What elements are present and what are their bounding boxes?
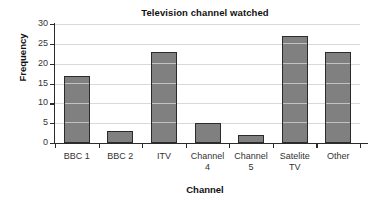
x-axis-tick-label: Channel 5 xyxy=(229,151,273,173)
bar xyxy=(151,52,177,143)
bar-gridline xyxy=(65,83,89,84)
x-axis-tick-label: ITV xyxy=(142,151,186,173)
bar xyxy=(64,76,90,143)
bar-gridline xyxy=(152,83,176,84)
y-axis-tick-label: 0 xyxy=(18,138,48,147)
y-axis-tick-label: 25 xyxy=(18,39,48,48)
bar-gridline xyxy=(326,63,350,64)
bar xyxy=(195,123,221,143)
x-axis-tick-label: Channel 4 xyxy=(186,151,230,173)
bar-gridline xyxy=(283,103,307,104)
x-axis-tick-label: BBC 1 xyxy=(55,151,99,173)
bar-slot xyxy=(316,24,360,143)
bar xyxy=(107,131,133,143)
bar-gridline xyxy=(152,63,176,64)
x-axis-tick xyxy=(142,144,143,148)
bar-gridline xyxy=(65,122,89,123)
x-axis-tick-label: BBC 2 xyxy=(99,151,143,173)
bar-gridline xyxy=(283,63,307,64)
bar-slot xyxy=(273,24,317,143)
bar-slot xyxy=(186,24,230,143)
plot-area xyxy=(55,24,360,143)
y-axis-tick-label: 5 xyxy=(18,118,48,127)
bar xyxy=(238,135,264,143)
bar xyxy=(325,52,351,143)
bar-gridline xyxy=(326,83,350,84)
bar-gridline xyxy=(283,43,307,44)
y-axis-line xyxy=(54,23,55,144)
y-axis-tick xyxy=(50,64,54,65)
bar-gridline xyxy=(326,103,350,104)
y-axis-tick-label: 15 xyxy=(18,79,48,88)
y-axis-tick-label: 30 xyxy=(18,19,48,28)
x-axis-tick xyxy=(55,144,56,148)
x-axis-tick xyxy=(360,144,361,148)
bar-slot xyxy=(142,24,186,143)
x-axis-tick-label: Other xyxy=(316,151,360,173)
x-axis-tick-label: Satelite TV xyxy=(273,151,317,173)
bar-series xyxy=(55,24,360,143)
x-axis-tick xyxy=(229,144,230,148)
bar-slot xyxy=(229,24,273,143)
y-axis-tick xyxy=(50,143,54,144)
y-axis-tick-label: 20 xyxy=(18,59,48,68)
bar-gridline xyxy=(283,83,307,84)
x-axis-tick xyxy=(99,144,100,148)
x-axis-tick xyxy=(316,144,317,148)
bar xyxy=(282,36,308,143)
chart-title: Television channel watched xyxy=(45,7,365,18)
bar-chart: Television channel watched Frequency Cha… xyxy=(0,0,382,208)
bar-gridline xyxy=(152,122,176,123)
bar-slot xyxy=(99,24,143,143)
x-axis-tick xyxy=(186,144,187,148)
y-axis-tick-label: 10 xyxy=(18,98,48,107)
bar-gridline xyxy=(65,103,89,104)
y-axis-tick xyxy=(50,103,54,104)
bar-gridline xyxy=(152,103,176,104)
bar-slot xyxy=(55,24,99,143)
x-axis-title: Channel xyxy=(45,184,365,195)
y-axis-tick xyxy=(50,24,54,25)
bar-gridline xyxy=(283,122,307,123)
bar-gridline xyxy=(326,122,350,123)
x-axis-tick xyxy=(273,144,274,148)
y-axis-tick xyxy=(50,123,54,124)
x-axis-line xyxy=(54,143,368,144)
x-axis-tick-labels: BBC 1BBC 2ITVChannel 4Channel 5Satelite … xyxy=(55,151,360,173)
y-axis-tick xyxy=(50,84,54,85)
y-axis-tick xyxy=(50,44,54,45)
